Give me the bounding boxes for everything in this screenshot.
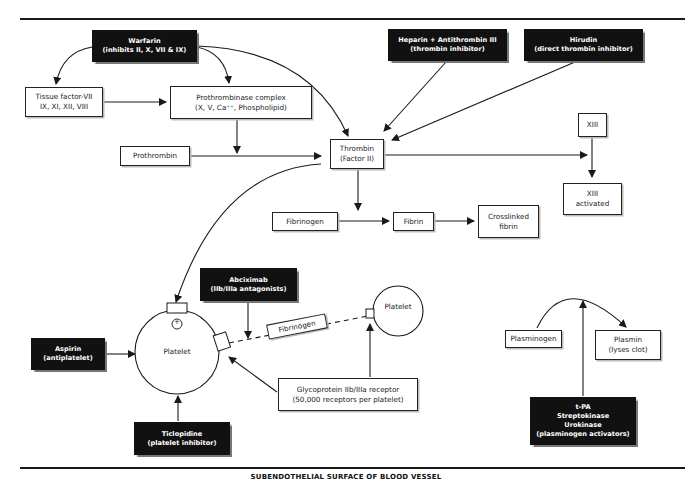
top-rule <box>20 18 685 20</box>
drug-heparin: Heparin + Antithrombin III (thrombin inh… <box>388 29 507 61</box>
drug-action: (platelet inhibitor) <box>147 439 216 448</box>
factor-plasmin: Plasmin (lyses clot) <box>595 330 661 360</box>
drug-action: (inhibits II, X, VII & IX) <box>103 46 187 55</box>
bottom-rule <box>20 467 685 469</box>
platelet-main-label: Platelet <box>152 347 202 356</box>
drug-action: (plasminogen activators) <box>536 430 629 439</box>
drug-name: t-PA <box>575 403 590 412</box>
factor-tissue-factor: Tissue factor-VII IX, XI, XII, VIII <box>25 87 103 117</box>
drug-name: Hirudin <box>570 36 597 45</box>
coagulation-diagram: Warfarin (inhibits II, X, VII & IX) Hepa… <box>0 0 692 486</box>
factor-sublabel: (Factor II) <box>340 154 374 164</box>
arrow-plasminogen-to-plasmin <box>537 299 626 328</box>
drug-name: Aspirin <box>55 345 81 354</box>
drug-name: Heparin + Antithrombin III <box>398 36 497 45</box>
drug-thrombolytics: t-PA Streptokinase Urokinase (plasminoge… <box>530 397 636 445</box>
factor-label: XIII <box>587 120 598 130</box>
factor-label: XIII <box>587 189 598 199</box>
factor-sublabel: (X, V, Ca⁺⁺, Phospholipid) <box>195 103 287 113</box>
platelet-top-receptor <box>167 303 187 313</box>
factor-label: Prothrombinase complex <box>196 93 285 103</box>
platelet-secondary-receptor <box>366 309 374 318</box>
factor-label: Glycoprotein IIb/IIIa receptor <box>297 385 400 395</box>
drug-warfarin: Warfarin (inhibits II, X, VII & IX) <box>92 30 197 62</box>
factor-fibrinogen: Fibrinogen <box>272 212 338 231</box>
drug-action: (antiplatelet) <box>43 354 93 363</box>
footer-label: SUBENDOTHELIAL SURFACE OF BLOOD VESSEL <box>0 473 692 481</box>
factor-xiii-activated: XIII activated <box>563 183 622 215</box>
drug-action: (thrombin inhibitor) <box>410 45 484 54</box>
factor-fibrin: Fibrin <box>393 212 434 231</box>
factor-label: Thrombin <box>340 144 374 154</box>
factor-crosslinked-fibrin: Crosslinked fibrin <box>478 205 539 238</box>
drug-name: Abciximab <box>229 276 268 285</box>
arrow-warfarin-to-tissue-factor <box>56 47 92 84</box>
factor-sublabel: (50,000 receptors per platelet) <box>292 395 403 405</box>
factor-sublabel: IX, XI, XII, VIII <box>40 102 88 112</box>
platelet-secondary-circle <box>373 286 423 336</box>
factor-label: Plasmin <box>614 335 642 345</box>
drug-ticlopidine: Ticlopidine (platelet inhibitor) <box>134 422 230 455</box>
drug-name: Warfarin <box>128 37 160 46</box>
drug-abciximab: Abciximab (IIb/IIIa antagonists) <box>200 268 297 301</box>
factor-prothrombinase: Prothrombinase complex (X, V, Ca⁺⁺, Phos… <box>170 86 312 119</box>
factor-xiii: XIII <box>578 113 607 137</box>
activation-plus-icon: + <box>172 318 182 326</box>
arrow-warfarin-to-prothrombinase <box>197 47 229 83</box>
arrow-hirudin-to-thrombin <box>392 62 575 140</box>
drug-action: (IIb/IIIa antagonists) <box>210 285 286 294</box>
factor-label: Fibrin <box>404 217 424 227</box>
factor-glycoprotein-receptor: Glycoprotein IIb/IIIa receptor (50,000 r… <box>278 378 418 411</box>
factor-sublabel: (lyses clot) <box>608 345 647 355</box>
factor-sublabel: activated <box>576 199 610 209</box>
drug-aspirin: Aspirin (antiplatelet) <box>31 338 105 370</box>
drug-action: (direct thrombin inhibitor) <box>534 45 632 54</box>
factor-label: Prothrombin <box>133 151 177 161</box>
factor-label: Crosslinked <box>488 212 529 222</box>
factor-label: Plasminogen <box>511 334 557 344</box>
factor-label: Tissue factor-VII <box>36 92 93 102</box>
drug-name: Ticlopidine <box>162 430 203 439</box>
factor-sublabel: fibrin <box>499 222 518 232</box>
factor-thrombin: Thrombin (Factor II) <box>330 139 384 169</box>
platelet-secondary-label: Platelet <box>378 302 418 311</box>
drug-name: Urokinase <box>564 421 601 430</box>
factor-plasminogen: Plasminogen <box>505 330 562 348</box>
factor-prothrombin: Prothrombin <box>120 146 190 166</box>
factor-label: Fibrinogen <box>286 217 324 227</box>
drug-hirudin: Hirudin (direct thrombin inhibitor) <box>524 29 643 61</box>
arrow-glycoprotein-to-platelet <box>229 357 277 392</box>
drug-name: Streptokinase <box>557 412 609 421</box>
